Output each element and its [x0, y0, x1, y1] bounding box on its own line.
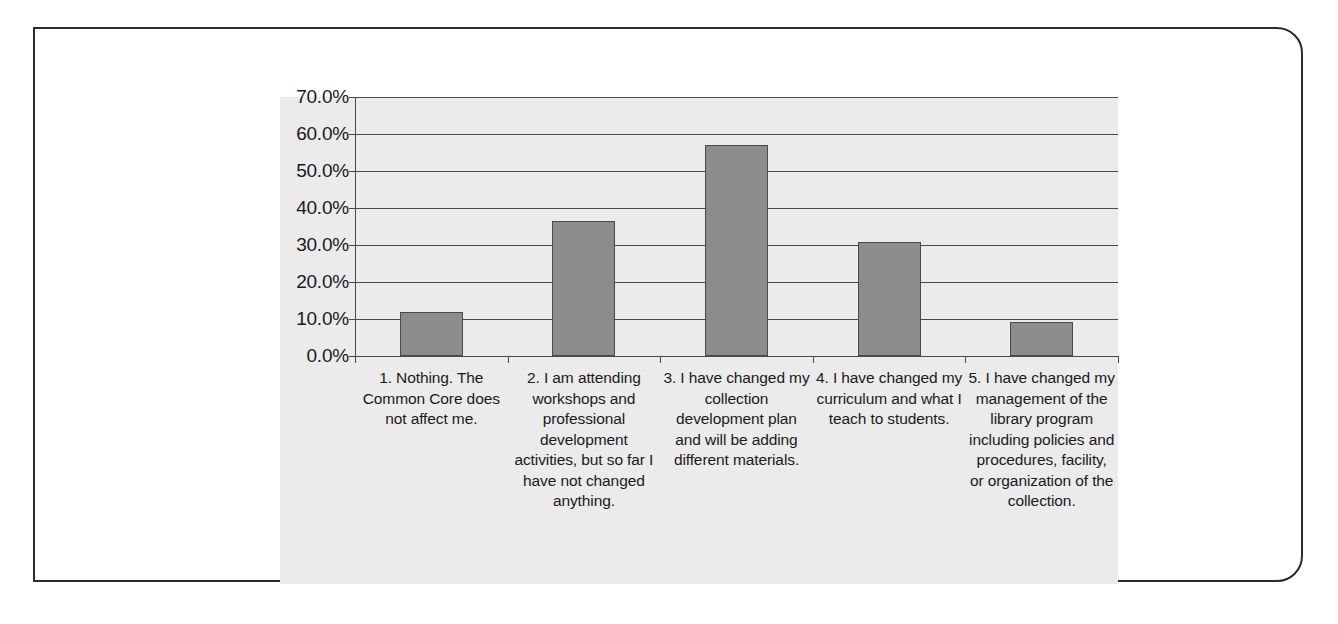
x-axis-category-label: 2. I am attending workshops and professi…	[508, 368, 661, 512]
bar	[1010, 322, 1073, 356]
bar	[858, 242, 921, 356]
x-axis-end-tick	[1118, 357, 1119, 363]
y-axis-tick-label: 50.0%	[296, 161, 349, 180]
bar	[705, 145, 768, 356]
x-axis-tick	[965, 357, 966, 363]
x-axis-tick	[813, 357, 814, 363]
gridline	[355, 134, 1118, 135]
x-axis-category-label: 4. I have changed my curriculum and what…	[813, 368, 966, 430]
plot-area	[355, 97, 1118, 356]
x-axis-end-tick	[355, 357, 356, 363]
gridline	[355, 97, 1118, 98]
y-axis-tick-label: 40.0%	[296, 198, 349, 217]
y-axis-tick-label: 30.0%	[296, 235, 349, 254]
x-axis-category-label: 3. I have changed my collection developm…	[660, 368, 813, 471]
x-axis-tick	[508, 357, 509, 363]
x-axis-category-labels: 1. Nothing. The Common Core does not aff…	[355, 368, 1118, 583]
y-axis-tick-label: 10.0%	[296, 309, 349, 328]
y-axis-tick-label: 60.0%	[296, 124, 349, 143]
y-axis-tick-label: 0.0%	[306, 346, 349, 365]
y-axis-labels: 70.0%60.0%50.0%40.0%30.0%20.0%10.0%0.0%	[271, 97, 349, 357]
x-axis-category-label: 5. I have changed my management of the l…	[965, 368, 1118, 512]
bar	[400, 312, 463, 356]
y-axis-tick-label: 70.0%	[296, 87, 349, 106]
y-axis-line	[355, 97, 356, 357]
x-axis-line	[355, 356, 1119, 357]
x-axis-category-label: 1. Nothing. The Common Core does not aff…	[355, 368, 508, 430]
chart-outer-frame: 70.0%60.0%50.0%40.0%30.0%20.0%10.0%0.0% …	[33, 27, 1303, 582]
y-axis-tick-label: 20.0%	[296, 272, 349, 291]
bar	[552, 221, 615, 356]
x-axis-tick	[660, 357, 661, 363]
